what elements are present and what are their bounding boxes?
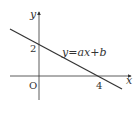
x-intercept-label: 4 [96,80,102,91]
origin-label: O [29,80,37,91]
x-axis-label: x [126,74,133,87]
coordinate-graph: y x O 2 4 y=ax+b [0,0,139,115]
equation-label: y=ax+b [61,46,106,59]
linear-function-line [10,29,122,89]
y-axis-label: y [29,8,37,21]
y-intercept-label: 2 [30,43,36,54]
